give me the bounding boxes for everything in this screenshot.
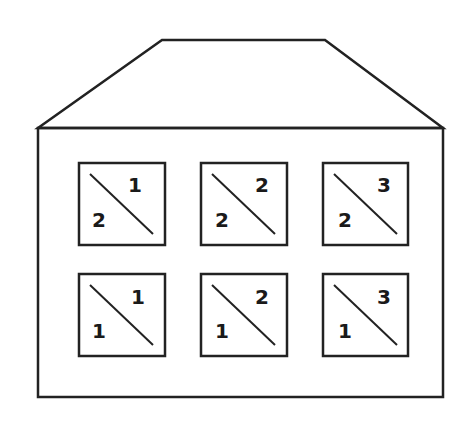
cell-top-2: 2 2 xyxy=(201,163,287,245)
roof xyxy=(38,40,443,128)
cell-bottom-left-number: 1 xyxy=(338,319,352,343)
cell-bottom-left-number: 2 xyxy=(215,208,229,232)
cell-top-right-number: 1 xyxy=(128,173,142,197)
cell-bottom-left-number: 1 xyxy=(92,319,106,343)
cell-top-right-number: 3 xyxy=(377,285,391,309)
cell-top-right-number: 2 xyxy=(255,173,269,197)
cell-top-right-number: 3 xyxy=(377,173,391,197)
cell-row-bottom: 1 1 2 1 3 1 xyxy=(79,274,408,356)
house-diagram: 1 2 2 2 3 2 1 1 2 1 xyxy=(0,0,468,435)
cell-top-3: 3 2 xyxy=(323,163,408,245)
cell-bottom-left-number: 1 xyxy=(215,319,229,343)
cell-row-top: 1 2 2 2 3 2 xyxy=(79,163,408,245)
cell-bottom-left-number: 2 xyxy=(92,208,106,232)
cell-bottom-2: 2 1 xyxy=(201,274,287,356)
cell-bottom-3: 3 1 xyxy=(323,274,408,356)
cell-top-right-number: 1 xyxy=(131,285,145,309)
cell-top-right-number: 2 xyxy=(255,285,269,309)
cell-bottom-left-number: 2 xyxy=(338,208,352,232)
cell-top-1: 1 2 xyxy=(79,163,165,245)
cell-bottom-1: 1 1 xyxy=(79,274,165,356)
